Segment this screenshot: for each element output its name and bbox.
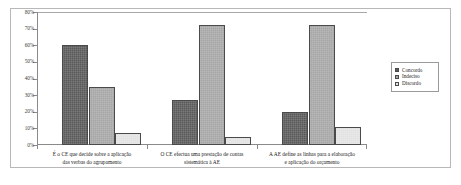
- plot-area: 80% 70% 60% 50% 40% 30% 20% 10%: [37, 12, 367, 145]
- bars-layer: [37, 12, 367, 145]
- legend-swatch-indeciso-icon: [395, 75, 399, 79]
- bar-group0-concordo[interactable]: [62, 45, 88, 145]
- legend-swatch-concordo-icon: [395, 68, 399, 72]
- y-tick-label-50: 50%: [25, 60, 34, 65]
- x-label-2-line2: e aplicação do orçamento: [249, 158, 375, 166]
- legend-item-discordo[interactable]: Discordo: [395, 81, 435, 86]
- x-label-1-line1: O CE efectua uma prestação de contas: [161, 151, 244, 157]
- x-label-0-line1: É o CE que decide sobre a aplicação: [53, 151, 132, 157]
- y-tick-label-10: 10%: [25, 126, 34, 131]
- bar-group-0: [55, 12, 147, 145]
- legend-label-discordo: Discordo: [402, 81, 421, 86]
- x-tick-1: [147, 145, 148, 149]
- bar-group2-concordo[interactable]: [282, 112, 308, 145]
- bar-group-2: [275, 12, 367, 145]
- bar-group2-discordo[interactable]: [335, 127, 361, 145]
- bar-group2-indeciso[interactable]: [309, 25, 335, 145]
- legend-swatch-discordo-icon: [395, 82, 399, 86]
- x-label-1-line2: sistemática à AE: [139, 158, 265, 166]
- bar-group1-discordo[interactable]: [225, 137, 251, 145]
- x-label-2-line1: A AE define as linhas para a elaboração: [269, 151, 355, 157]
- y-tick-label-0: 0%: [27, 143, 34, 148]
- x-tick-2: [257, 145, 258, 149]
- x-label-0: É o CE que decide sobre a aplicação das …: [29, 150, 155, 166]
- y-tick-label-20: 20%: [25, 110, 34, 115]
- legend-item-concordo[interactable]: Concordo: [395, 68, 435, 73]
- x-label-1: O CE efectua uma prestação de contas sis…: [139, 150, 265, 166]
- bar-group1-concordo[interactable]: [172, 100, 198, 145]
- legend-label-concordo: Concordo: [402, 68, 422, 73]
- bar-chart-figure: 80% 70% 60% 50% 40% 30% 20% 10%: [0, 0, 461, 185]
- y-tick-label-30: 30%: [25, 93, 34, 98]
- x-label-0-line2: das verbas do agrupamento: [29, 158, 155, 166]
- bar-group0-indeciso[interactable]: [89, 87, 115, 145]
- x-label-2: A AE define as linhas para a elaboração …: [249, 150, 375, 166]
- y-tick-label-80: 80%: [25, 10, 34, 15]
- y-tick-label-60: 60%: [25, 43, 34, 48]
- bar-group1-indeciso[interactable]: [199, 25, 225, 145]
- bar-group0-discordo[interactable]: [115, 133, 141, 145]
- x-axis-labels: É o CE que decide sobre a aplicação das …: [37, 150, 367, 180]
- x-tick-start: [37, 145, 38, 149]
- y-tick-label-70: 70%: [25, 27, 34, 32]
- x-tick-end: [366, 145, 367, 149]
- bar-group-1: [165, 12, 257, 145]
- chart-legend: Concordo Indeciso Discordo: [391, 62, 439, 92]
- legend-label-indeciso: Indeciso: [402, 74, 420, 79]
- y-tick-label-40: 40%: [25, 76, 34, 81]
- legend-item-indeciso[interactable]: Indeciso: [395, 74, 435, 79]
